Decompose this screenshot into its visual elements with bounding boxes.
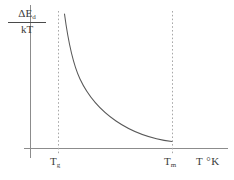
tm-subscript: m <box>171 161 176 169</box>
chart-figure: ΔEd kT Tg Tm T °K <box>0 0 234 180</box>
x-tick-label-tm: Tm <box>164 156 176 169</box>
y-axis-numerator-subscript: d <box>32 13 36 21</box>
y-axis-denominator: kT <box>8 23 46 35</box>
tg-subscript: g <box>57 161 61 169</box>
x-tick-label-tg: Tg <box>50 156 60 169</box>
x-axis-title: T °K <box>196 156 220 167</box>
decay-curve <box>65 14 173 142</box>
y-axis-label: ΔEd kT <box>8 8 46 35</box>
y-axis-numerator: ΔEd <box>8 8 46 23</box>
